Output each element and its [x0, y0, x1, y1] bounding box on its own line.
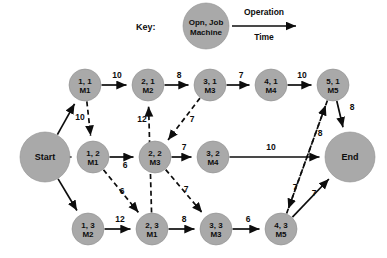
operation-node-o51[interactable]: 5, 1M5	[317, 69, 349, 101]
edge-label-o31-o22: 7	[190, 114, 195, 124]
node-opn-job-o32: 3, 2	[206, 149, 220, 158]
node-opn-job-o22: 2, 2	[148, 149, 162, 158]
operation-node-o41[interactable]: 4, 1M4	[255, 69, 287, 101]
legend-arrow-line1: Operation	[244, 7, 284, 17]
graph-canvas: StartEnd1, 1M12, 1M23, 1M34, 1M45, 1M51,…	[0, 0, 387, 258]
node-opn-job-o43: 4, 3	[274, 221, 288, 230]
legend-key-label: Key:	[136, 22, 156, 32]
node-opn-job-o51: 5, 1	[326, 77, 340, 86]
node-label-start: Start	[35, 152, 56, 162]
edge-label-o51-end: 8	[350, 102, 355, 112]
precedence-edge-start-to-o13	[58, 179, 77, 211]
precedence-edge-o51-to-end	[337, 101, 343, 127]
terminal-node-start[interactable]: Start	[20, 132, 70, 182]
node-opn-job-o12: 1, 2	[86, 149, 100, 158]
node-machine-o21: M2	[142, 86, 154, 95]
edge-label-o51-o43: 7	[293, 182, 298, 192]
edge-label-o11-o12: 10	[75, 112, 85, 122]
node-machine-o33: M3	[210, 230, 222, 239]
machine-edge-o11-to-o12	[87, 101, 91, 135]
node-machine-o13: M2	[82, 230, 94, 239]
edge-label-o21-o31: 8	[177, 70, 182, 80]
edge-label-o33-o43: 6	[246, 214, 251, 224]
node-label-end: End	[342, 152, 359, 162]
operation-node-o33[interactable]: 3, 3M3	[200, 213, 232, 245]
legend: Key: Opn, Job Machine Operation Time	[136, 3, 296, 49]
operation-node-o12[interactable]: 1, 2M1	[77, 141, 109, 173]
legend-arrow-line2: Time	[254, 32, 274, 42]
operation-node-o13[interactable]: 1, 3M2	[72, 213, 104, 245]
edge-label-o23-o21: 12	[137, 114, 147, 124]
edge-label-o22-o33: 7	[184, 184, 189, 194]
precedence-edge-start-to-o11	[57, 104, 74, 135]
operation-nodes-layer: StartEnd1, 1M12, 1M23, 1M34, 1M45, 1M51,…	[20, 69, 375, 245]
node-machine-o41: M4	[265, 86, 277, 95]
node-machine-o22: M3	[149, 158, 161, 167]
edge-label-o23-o33: 8	[182, 214, 187, 224]
node-opn-job-o21: 2, 1	[141, 77, 155, 86]
node-machine-o31: M3	[204, 86, 216, 95]
operation-node-o43[interactable]: 4, 3M5	[265, 213, 297, 245]
node-machine-o51: M5	[327, 86, 339, 95]
edge-label-o31-o41: 7	[239, 70, 244, 80]
edge-label-o43-end: 7	[312, 188, 317, 198]
terminal-node-end[interactable]: End	[325, 132, 375, 182]
node-opn-job-o11: 1, 1	[78, 77, 92, 86]
job-shop-disjunctive-graph: StartEnd1, 1M12, 1M23, 1M34, 1M45, 1M51,…	[0, 0, 387, 258]
machine-edge-o31-to-o22	[168, 98, 200, 140]
edge-label-o11-o21: 10	[112, 70, 122, 80]
operation-node-o23[interactable]: 2, 3M1	[136, 213, 168, 245]
edge-label-o13-o23: 12	[115, 214, 125, 224]
node-opn-job-o33: 3, 3	[209, 221, 223, 230]
edge-label-o12-o23: 6	[120, 186, 125, 196]
legend-node-line1: Opn, Job	[189, 18, 224, 27]
node-machine-o23: M1	[146, 230, 158, 239]
node-opn-job-o31: 3, 1	[203, 77, 217, 86]
edge-label-o32-end: 10	[266, 142, 276, 152]
precedence-edge-o43-to-end	[292, 179, 328, 217]
operation-node-o22[interactable]: 2, 2M3	[139, 141, 171, 173]
operation-node-o31[interactable]: 3, 1M3	[194, 69, 226, 101]
edge-label-o43-o51: 8	[318, 128, 323, 138]
node-machine-o12: M1	[87, 158, 99, 167]
legend-node-line2: Machine	[190, 28, 223, 37]
edge-label-o12-o22: 6	[123, 160, 128, 170]
operation-node-o11[interactable]: 1, 1M1	[69, 69, 101, 101]
operation-node-o21[interactable]: 2, 1M2	[132, 69, 164, 101]
edge-label-o41-o51: 10	[297, 70, 307, 80]
operation-node-o32[interactable]: 3, 2M4	[197, 141, 229, 173]
node-machine-o43: M5	[275, 230, 287, 239]
node-opn-job-o13: 1, 3	[81, 221, 95, 230]
node-machine-o11: M1	[79, 86, 91, 95]
node-opn-job-o41: 4, 1	[264, 77, 278, 86]
edge-label-o22-o32: 7	[182, 142, 187, 152]
node-machine-o32: M4	[207, 158, 219, 167]
node-opn-job-o23: 2, 3	[145, 221, 159, 230]
